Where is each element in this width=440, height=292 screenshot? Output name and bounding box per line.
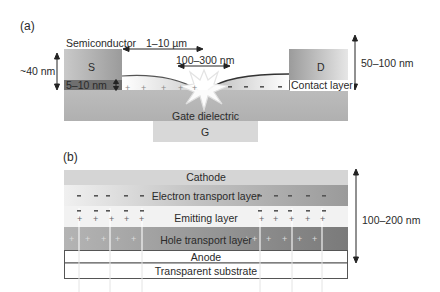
anode-label: Anode (64, 252, 348, 263)
emitting-label: Emitting layer (64, 213, 348, 224)
etl-label-text: Electron transport layer (152, 190, 261, 202)
oled-stack-diagram: +++++ +++++ +++++ ++++++ (0, 0, 440, 292)
cathode-label: Cathode (64, 172, 348, 183)
htl-label: Hole transport layer (64, 235, 348, 246)
stack-thickness-label: 100–200 nm (362, 215, 420, 226)
substrate-label: Transparent substrate (64, 266, 348, 277)
etl-label: Electron transport layer (64, 191, 348, 202)
